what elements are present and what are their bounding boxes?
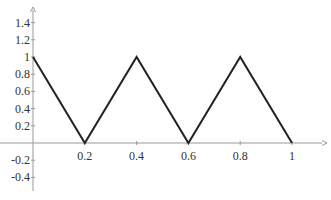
chart: 0.20.40.60.81-0.4-0.20.20.40.60.811.21.4	[0, 0, 331, 200]
data-series	[33, 57, 292, 143]
x-tick-label: 1	[289, 149, 295, 163]
x-axis-arrow-icon	[322, 141, 327, 146]
tick-labels: 0.20.40.60.81-0.4-0.20.20.40.60.811.21.4	[11, 16, 295, 185]
x-tick-label: 0.6	[181, 149, 196, 163]
x-tick-label: 0.4	[129, 149, 144, 163]
plot-area: 0.20.40.60.81-0.4-0.20.20.40.60.811.21.4	[0, 0, 331, 200]
y-tick-label: 1	[24, 50, 30, 64]
y-tick-label: 0.4	[15, 102, 30, 116]
series-line	[33, 57, 292, 143]
y-tick-label: 0.2	[15, 119, 30, 133]
y-tick-label: 0.8	[15, 67, 30, 81]
axes	[0, 7, 327, 191]
x-tick-label: 0.2	[77, 149, 92, 163]
y-tick-label: 1.4	[15, 16, 30, 30]
y-tick-label: 0.6	[15, 84, 30, 98]
y-tick-label: 1.2	[15, 33, 30, 47]
y-tick-label: -0.2	[11, 153, 30, 167]
x-tick-label: 0.8	[233, 149, 248, 163]
y-tick-label: -0.4	[11, 170, 30, 184]
